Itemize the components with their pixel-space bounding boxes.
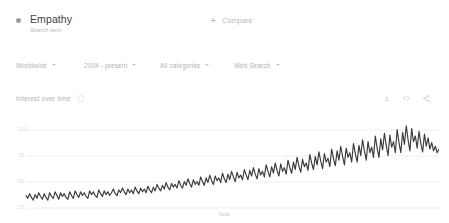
interest-over-time-panel: Interest over time xyxy=(10,90,439,223)
chevron-down-icon xyxy=(132,64,136,66)
search-term-block[interactable]: Empathy Search term xyxy=(0,13,72,35)
add-compare-button[interactable]: + Compare xyxy=(210,16,252,25)
page-title: Empathy xyxy=(30,13,72,25)
share-icon[interactable] xyxy=(422,94,431,103)
filter-search-type[interactable]: Web Search xyxy=(234,62,280,69)
panel-title: Interest over time xyxy=(16,95,71,102)
page-header: Empathy Search term + Compare xyxy=(0,0,449,46)
filter-category[interactable]: All categories xyxy=(160,62,234,69)
search-term-subtitle: Search term xyxy=(30,26,72,35)
chevron-down-icon xyxy=(276,64,280,66)
chart-plot-area[interactable]: 100 75 50 25 Note xyxy=(10,112,439,223)
interest-over-time-chart xyxy=(10,112,439,223)
plus-icon: + xyxy=(210,17,216,25)
filter-location-label: Worldwide xyxy=(16,62,47,69)
chevron-down-icon xyxy=(205,64,209,66)
y-axis-label-25: 25 xyxy=(18,204,24,210)
y-axis-label-50: 50 xyxy=(18,178,24,184)
filter-time-range-label: 2004 - present xyxy=(84,62,127,69)
filter-category-label: All categories xyxy=(160,62,200,69)
bullet-dot-icon xyxy=(16,18,21,23)
chevron-down-icon xyxy=(52,64,56,66)
embed-code-icon[interactable] xyxy=(402,94,411,103)
panel-header: Interest over time xyxy=(10,90,439,106)
y-axis-label-100: 100 xyxy=(18,126,27,132)
download-icon[interactable] xyxy=(382,94,391,103)
compare-label: Compare xyxy=(222,16,252,25)
filter-bar: Worldwide 2004 - present All categories … xyxy=(0,54,449,76)
search-term-text: Empathy Search term xyxy=(30,13,72,35)
panel-actions xyxy=(382,94,431,103)
filter-time-range[interactable]: 2004 - present xyxy=(84,62,160,69)
y-axis-label-75: 75 xyxy=(18,152,24,158)
info-circle-icon[interactable] xyxy=(77,95,84,102)
note-annotation: Note xyxy=(10,211,439,217)
chart-line-series xyxy=(26,126,439,200)
filter-search-type-label: Web Search xyxy=(234,62,271,69)
filter-location[interactable]: Worldwide xyxy=(16,62,84,69)
